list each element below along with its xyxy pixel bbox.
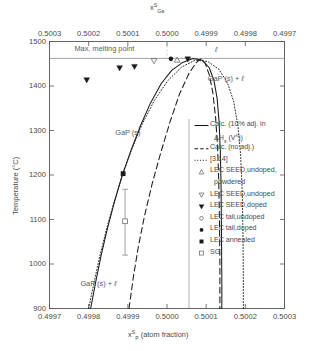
x-axis-tick-label-bottom: 0.5003 bbox=[271, 313, 299, 321]
curve-dashed bbox=[129, 59, 220, 309]
legend-lec-seed-undoped: LEC SEED,undoped bbox=[196, 189, 284, 200]
marker-open-triangle-up bbox=[174, 57, 180, 62]
y-axis-tick-label: 1500 bbox=[16, 38, 46, 46]
x-axis-title: xSP (atom fraction) bbox=[128, 330, 188, 341]
x-axis-tick-label-top: 0.5003 bbox=[36, 30, 64, 38]
legend-lec-tail-undoped-label: LEC tail,undoped bbox=[210, 214, 264, 221]
legend-lec-seed-undoped-powdered-label: LEC SEED,undoped, bbox=[210, 167, 277, 174]
legend-lec-annealed: LEC annealed bbox=[196, 236, 284, 247]
x-axis-tick-label-top: 0.4998 bbox=[231, 30, 259, 38]
y-axis-tick-label: 1300 bbox=[16, 127, 46, 135]
legend-lec-seed-undoped-powdered: LEC SEED,undoped, bbox=[196, 166, 284, 177]
legend-lec-tail-doped-label: LEC tail,doped bbox=[210, 225, 257, 232]
legend-sg-label: SG bbox=[210, 249, 220, 256]
curve-solid bbox=[91, 58, 222, 308]
legend-calc-adjusted-label: Calc. (10% adj. in bbox=[210, 121, 266, 128]
x-axis-tick-label-bottom: 0.4997 bbox=[36, 313, 64, 321]
y-axis-tick-label: 1100 bbox=[16, 216, 46, 224]
legend-ref-314: [3.14] bbox=[196, 154, 284, 165]
marker-open-triangle-down bbox=[151, 59, 157, 64]
x-axis-title-rest: (atom fraction) bbox=[139, 330, 189, 339]
x-axis-tick-label-bottom: 0.5001 bbox=[192, 313, 220, 321]
x-axis-tick-label-bottom: 0.5002 bbox=[231, 313, 259, 321]
legend-sg: SG bbox=[196, 247, 284, 258]
y-axis-tick-label: 1400 bbox=[16, 82, 46, 90]
legend-calc-adjusted: Calc. (10% adj. in bbox=[196, 120, 284, 131]
legend-lec-seed-doped: LEC SEED,doped bbox=[196, 201, 284, 212]
x-axis-tick-label-bottom: 0.4999 bbox=[114, 313, 142, 321]
x-axis-tick-label-top: 0.5000 bbox=[153, 30, 181, 38]
annotation-liquid-field: ℓ bbox=[215, 46, 217, 53]
x-axis-tick-label-top: 0.4999 bbox=[192, 30, 220, 38]
x-axis-tick-label-top: 0.5001 bbox=[114, 30, 142, 38]
marker-filled-triangle-down bbox=[84, 78, 90, 83]
legend-lec-seed-undoped-powdered-label-line2: powdered bbox=[214, 179, 245, 186]
legend-lec-seed-undoped-label: LEC SEED,undoped bbox=[210, 191, 275, 198]
legend-lec-tail-doped: LEC tail,doped bbox=[196, 224, 284, 235]
legend-ref-314-label: [3.14] bbox=[210, 156, 228, 163]
annotation-gap-solid-plus-liquid-right: GaP (s) + ℓ bbox=[200, 75, 252, 82]
marker-filled-square bbox=[121, 171, 126, 176]
legend-lec-annealed-label: LEC annealed bbox=[210, 237, 255, 244]
top-axis-title-sub: Ga bbox=[157, 8, 164, 14]
y-axis-title: Temperature (°C) bbox=[12, 157, 20, 215]
x-axis-tick-label-bottom: 0.4998 bbox=[75, 313, 103, 321]
legend-lec-seed-doped-label: LEC SEED,doped bbox=[210, 202, 267, 209]
legend-lec-tail-undoped: LEC tail,undoped bbox=[196, 212, 284, 223]
y-axis-tick-label: 1000 bbox=[16, 260, 46, 268]
legend-calc-no-adj-label: Calc. (no adj.) bbox=[210, 144, 254, 151]
annotation-gap-solid-plus-liquid-left: GaP (s) + ℓ bbox=[72, 280, 124, 287]
x-axis-tick-label-bottom: 0.5000 bbox=[153, 313, 181, 321]
legend-calc-no-adj: Calc. (no adj.) bbox=[196, 143, 284, 154]
marker-filled-circle bbox=[169, 57, 174, 62]
annotation-gap-solid: GaP (s) bbox=[102, 129, 154, 136]
annotation-max-melting-point: Max. melting point bbox=[74, 45, 126, 52]
marker-filled-triangle-down bbox=[117, 66, 123, 71]
marker-open-square bbox=[123, 219, 128, 224]
top-axis-title: xSGa bbox=[150, 3, 164, 14]
y-axis-tick-label: 1200 bbox=[16, 171, 46, 179]
phase-diagram-figure: 0.49970.49980.49990.50000.50010.50020.50… bbox=[0, 0, 324, 351]
y-axis-tick-label: 900 bbox=[16, 305, 46, 313]
x-axis-tick-label-top: 0.5002 bbox=[75, 30, 103, 38]
marker-filled-triangle-down bbox=[132, 64, 138, 69]
x-axis-tick-label-top: 0.4997 bbox=[271, 30, 299, 38]
